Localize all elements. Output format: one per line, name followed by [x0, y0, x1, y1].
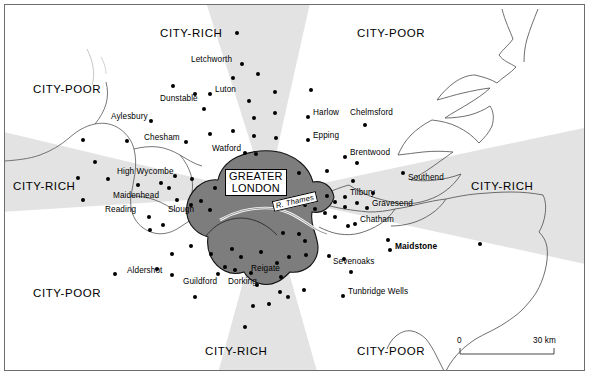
settlement-dot — [209, 252, 214, 257]
settlement-dot — [189, 244, 194, 249]
settlement-dot — [297, 232, 302, 237]
settlement-dot — [167, 186, 172, 191]
settlement-dot — [235, 31, 240, 36]
settlement-dot — [213, 186, 218, 191]
town-label-luton: Luton — [215, 85, 236, 94]
town-label-reading: Reading — [105, 205, 136, 214]
town-label-letchworth: Letchworth — [191, 55, 232, 64]
town-label-slough: Slough — [168, 205, 194, 214]
town-dot-tilbury — [343, 195, 348, 200]
town-label-dunstable: Dunstable — [160, 94, 198, 103]
settlement-dot — [303, 239, 308, 244]
town-label-brentwood: Brentwood — [350, 148, 390, 157]
settlement-dot — [148, 228, 153, 233]
settlement-dot — [231, 76, 236, 81]
town-label-aldershot: Aldershot — [127, 266, 163, 275]
settlement-dot — [349, 270, 354, 275]
town-label-chelmsford: Chelmsford — [350, 108, 393, 117]
settlement-dot — [159, 181, 164, 186]
town-dot-luton — [208, 92, 213, 97]
settlement-dot — [76, 176, 81, 181]
settlement-dot — [113, 272, 118, 277]
town-dot-maidstone — [388, 248, 393, 253]
settlement-dot — [325, 169, 330, 174]
settlement-dot — [243, 325, 248, 330]
town-dot-maistone-marker — [386, 238, 391, 243]
sector-label-northeast-city-poor: CITY-POOR — [357, 27, 425, 39]
town-label-tunbridge-wells: Tunbridge Wells — [348, 287, 408, 296]
settlement-dot — [274, 136, 279, 141]
town-label-high-wycombe: High Wycombe — [117, 167, 174, 176]
settlement-dot — [333, 215, 338, 220]
settlement-dot — [286, 295, 291, 300]
settlement-dot — [239, 255, 244, 260]
settlement-dot — [125, 139, 130, 144]
settlement-dot — [297, 171, 302, 176]
town-dot-harlow — [306, 115, 311, 120]
settlement-dot — [333, 200, 338, 205]
town-dot-maidenhead — [175, 198, 180, 203]
settlement-dot — [202, 107, 207, 112]
sector-label-northwest-city-poor: CITY-POOR — [33, 83, 101, 95]
settlement-dot — [287, 255, 292, 260]
settlement-dot — [267, 302, 272, 307]
settlement-dot — [309, 88, 314, 93]
settlement-dot — [170, 252, 175, 257]
settlement-dot — [171, 84, 176, 89]
map-overlay: CITY-RICHCITY-POORCITY-POORCITY-RICHCITY… — [5, 5, 584, 370]
settlement-dot — [351, 179, 356, 184]
settlement-dot — [478, 242, 483, 247]
settlement-dot — [247, 99, 252, 104]
settlement-dot — [252, 116, 257, 121]
settlement-dot — [259, 250, 264, 255]
settlement-dot — [279, 275, 284, 280]
sector-label-north-city-rich: CITY-RICH — [160, 27, 222, 39]
settlement-dot — [323, 211, 328, 216]
settlement-dot — [302, 288, 307, 293]
map-frame: CITY-RICHCITY-POORCITY-POORCITY-RICHCITY… — [4, 4, 585, 371]
town-label-harlow: Harlow — [313, 108, 339, 117]
town-dot-chatham — [353, 222, 358, 227]
town-dot-chelmsford — [363, 123, 368, 128]
settlement-dot — [81, 198, 86, 203]
settlement-dot — [251, 304, 256, 309]
town-label-southend: Southend — [408, 173, 444, 182]
town-dot-chesham — [184, 140, 189, 145]
settlement-dot — [199, 199, 204, 204]
town-label-aylesbury: Aylesbury — [111, 112, 148, 121]
town-label-chesham: Chesham — [144, 133, 180, 142]
settlement-dot — [346, 224, 351, 229]
settlement-dot — [81, 138, 86, 143]
settlement-dot — [252, 134, 257, 139]
settlement-dot — [193, 295, 198, 300]
town-label-watford: Watford — [212, 144, 241, 153]
greater-london-label: GREATER LONDON — [225, 169, 287, 196]
settlement-dot — [106, 177, 111, 182]
town-label-reigate: Reigate — [251, 264, 280, 273]
town-dot-gravesend — [365, 206, 370, 211]
town-dot-southend — [401, 171, 406, 176]
town-label-gravesend: Gravesend — [372, 199, 413, 208]
settlement-dot — [233, 268, 238, 273]
settlement-dot — [313, 207, 318, 212]
map-figure: CITY-RICHCITY-POORCITY-POORCITY-RICHCITY… — [0, 0, 589, 375]
town-dot-watford — [243, 151, 248, 156]
greater-london-label-line2: LONDON — [232, 182, 280, 194]
town-label-maidenhead: Maidenhead — [113, 191, 159, 200]
settlement-dot — [223, 265, 228, 270]
settlement-dot — [278, 290, 283, 295]
town-label-guildford: Guildford — [183, 277, 217, 286]
town-dot-letchworth — [240, 62, 245, 67]
settlement-dot — [281, 231, 286, 236]
settlement-dot — [304, 253, 309, 258]
settlement-dot — [208, 132, 213, 137]
town-dot-brentwood — [343, 155, 348, 160]
settlement-dot — [325, 194, 330, 199]
settlement-dot — [136, 183, 141, 188]
settlement-dot — [273, 90, 278, 95]
settlement-dot — [190, 177, 195, 182]
town-dot-epping — [306, 138, 311, 143]
settlement-dot — [230, 247, 235, 252]
town-dot-aldershot — [170, 273, 175, 278]
town-dot-tunbridge-wells — [341, 294, 346, 299]
